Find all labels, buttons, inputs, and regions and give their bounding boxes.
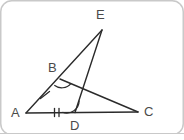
vertex-label-D: D <box>70 119 79 132</box>
segment-AC <box>26 112 138 113</box>
geometry-figure-canvas: A B C D E <box>0 0 184 140</box>
vertex-label-E: E <box>96 8 105 21</box>
geometry-diagram-svg <box>0 0 184 140</box>
page-border <box>1 1 184 135</box>
vertex-label-B: B <box>48 61 57 74</box>
vertex-label-A: A <box>11 106 20 119</box>
vertex-label-C: C <box>144 105 153 118</box>
